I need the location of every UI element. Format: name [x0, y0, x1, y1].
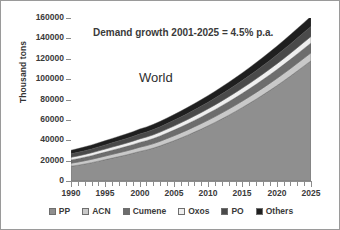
legend-swatch-icon — [49, 208, 56, 215]
x-tick-minor — [126, 182, 127, 186]
legend-label: Oxos — [188, 206, 209, 216]
legend-label: PP — [59, 206, 70, 216]
x-tick-major — [242, 182, 243, 187]
x-tick-major — [174, 182, 175, 187]
legend-item[interactable]: Cumene — [123, 206, 167, 216]
x-tick-minor — [249, 182, 250, 186]
x-tick-minor — [153, 182, 154, 186]
x-tick-minor — [112, 182, 113, 186]
growth-annotation: Demand growth 2001-2025 = 4.5% p.a. — [93, 27, 273, 38]
x-tick-major — [105, 182, 106, 187]
x-tick-major — [140, 182, 141, 187]
legend-item[interactable]: Others — [256, 206, 293, 216]
legend-swatch-icon — [178, 208, 185, 215]
y-tick-label: 100000 — [2, 73, 64, 83]
x-tick-minor — [146, 182, 147, 186]
legend-label: ACN — [92, 206, 110, 216]
x-axis-line — [71, 181, 312, 182]
legend-swatch-icon — [221, 208, 228, 215]
legend-swatch-icon — [256, 208, 263, 215]
x-tick-minor — [263, 182, 264, 186]
x-tick-minor — [119, 182, 120, 186]
legend-item[interactable]: PO — [221, 206, 243, 216]
chart-figure: Thousand tons 02000040000600008000010000… — [0, 0, 340, 230]
x-tick-minor — [304, 182, 305, 186]
y-tick — [66, 18, 71, 19]
legend-item[interactable]: Oxos — [178, 206, 209, 216]
legend-swatch-icon — [82, 208, 89, 215]
legend-swatch-icon — [123, 208, 130, 215]
y-tick-label: 60000 — [2, 114, 64, 124]
y-tick — [66, 161, 71, 162]
x-tick-minor — [270, 182, 271, 186]
x-tick-minor — [215, 182, 216, 186]
x-tick-minor — [284, 182, 285, 186]
y-tick — [66, 38, 71, 39]
x-tick-minor — [229, 182, 230, 186]
x-tick-label: 2025 — [291, 188, 331, 198]
x-tick-minor — [160, 182, 161, 186]
y-tick — [66, 120, 71, 121]
legend-item[interactable]: ACN — [82, 206, 110, 216]
legend-label: PO — [231, 206, 243, 216]
y-tick-label: 80000 — [2, 94, 64, 104]
x-tick-minor — [85, 182, 86, 186]
x-tick-minor — [256, 182, 257, 186]
x-tick-minor — [188, 182, 189, 186]
y-tick-label: 0 — [2, 175, 64, 185]
y-tick-label: 40000 — [2, 134, 64, 144]
x-tick-major — [311, 182, 312, 187]
y-tick-label: 120000 — [2, 53, 64, 63]
x-tick-minor — [181, 182, 182, 186]
x-tick-label: 2015 — [222, 188, 262, 198]
x-tick-minor — [290, 182, 291, 186]
x-tick-major — [208, 182, 209, 187]
legend-label: Others — [266, 206, 293, 216]
chart-legend: PPACNCumeneOxosPOOthers — [1, 201, 340, 221]
world-label: World — [139, 70, 173, 85]
x-tick-minor — [194, 182, 195, 186]
x-tick-major — [71, 182, 72, 187]
x-tick-minor — [92, 182, 93, 186]
x-tick-major — [277, 182, 278, 187]
legend-item[interactable]: PP — [49, 206, 70, 216]
x-tick-label: 1995 — [85, 188, 125, 198]
x-tick-minor — [167, 182, 168, 186]
y-tick — [66, 140, 71, 141]
x-tick-minor — [222, 182, 223, 186]
y-tick-label: 140000 — [2, 32, 64, 42]
y-tick — [66, 59, 71, 60]
plot-area — [71, 18, 311, 181]
y-tick-label: 20000 — [2, 155, 64, 165]
x-tick-minor — [98, 182, 99, 186]
x-tick-minor — [297, 182, 298, 186]
stacked-area-series — [71, 18, 311, 181]
x-tick-minor — [201, 182, 202, 186]
x-tick-minor — [78, 182, 79, 186]
y-tick — [66, 100, 71, 101]
y-tick — [66, 79, 71, 80]
x-tick-minor — [236, 182, 237, 186]
x-tick-minor — [133, 182, 134, 186]
y-tick-label: 160000 — [2, 12, 64, 22]
legend-label: Cumene — [133, 206, 167, 216]
